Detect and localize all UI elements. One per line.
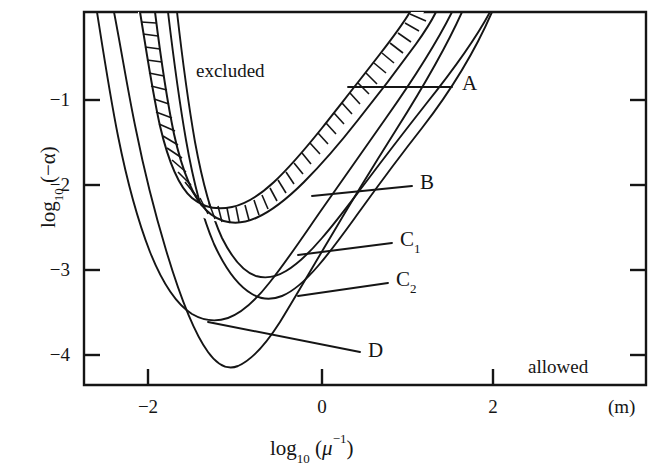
y-axis-title: log10 (−α): [38, 92, 62, 282]
x-axis-title-open: (: [310, 436, 322, 460]
x-axis-title-sub: 10: [297, 451, 310, 466]
figure-container: −1 −2 −3 −4 −2 0 2 (m) excluded allowed …: [0, 0, 658, 469]
x-axis-title-sup: −1: [333, 431, 347, 446]
x-tick-label-minus2: −2: [128, 397, 168, 416]
x-axis-title-variable: μ: [322, 436, 333, 460]
x-tick-label-2: 2: [473, 397, 513, 416]
y-axis-ticks-right: [630, 100, 646, 355]
curve-label-a: A: [462, 73, 477, 94]
curve-label-c1-base: C: [400, 227, 414, 251]
curve-label-c1-sub: 1: [414, 241, 421, 256]
curve-label-b: B: [420, 172, 434, 193]
x-axis-title-close: ): [346, 436, 353, 460]
region-label-excluded: excluded: [196, 61, 265, 80]
curve-label-c2: C2: [396, 269, 417, 293]
x-tick-label-0: 0: [302, 397, 342, 416]
y-axis-title-sub: 10: [51, 188, 66, 201]
curve-label-c2-sub: 2: [410, 281, 417, 296]
leader-d: [208, 322, 360, 352]
y-tick-label-minus4: −4: [40, 345, 70, 364]
curve-label-d: D: [368, 340, 383, 361]
x-axis-title-log: log: [270, 436, 297, 460]
x-axis-unit-label: (m): [608, 397, 635, 416]
region-label-allowed: allowed: [528, 357, 588, 376]
curve-label-c2-base: C: [396, 267, 410, 291]
x-axis-ticks: [148, 369, 493, 385]
y-axis-title-log: log: [36, 201, 60, 228]
leader-c2: [298, 283, 388, 296]
curve-label-c1: C1: [400, 229, 421, 253]
axis-frame: [84, 12, 646, 385]
x-axis-title: log10 (μ−1): [270, 436, 353, 462]
y-axis-ticks-left: [84, 100, 100, 355]
y-axis-title-tail: (−α): [36, 146, 60, 188]
